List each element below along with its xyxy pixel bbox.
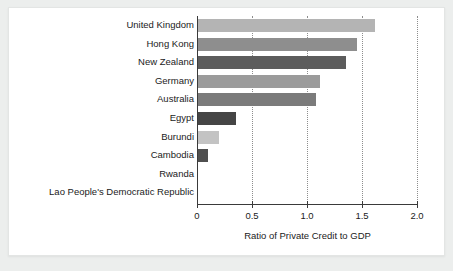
x-tick-label: 2.0 xyxy=(397,210,437,221)
bar xyxy=(197,93,316,106)
gridline-1.5 xyxy=(362,16,363,204)
x-tick xyxy=(362,201,363,208)
category-label: Rwanda xyxy=(0,169,194,179)
bar xyxy=(197,131,219,144)
x-tick xyxy=(252,201,253,208)
gridline-2.0 xyxy=(417,16,418,204)
chart-figure: United KingdomHong KongNew ZealandGerman… xyxy=(8,7,445,256)
bar xyxy=(197,112,236,125)
bar xyxy=(197,149,208,162)
category-label: Australia xyxy=(0,94,194,104)
plot-area: United KingdomHong KongNew ZealandGerman… xyxy=(9,8,446,257)
category-label: New Zealand xyxy=(0,57,194,67)
category-label: Lao People's Democratic Republic xyxy=(0,187,194,197)
category-label: United Kingdom xyxy=(0,20,194,30)
x-tick xyxy=(197,201,198,208)
bar xyxy=(197,56,346,69)
x-axis-title: Ratio of Private Credit to GDP xyxy=(197,230,418,241)
x-tick-label: 0.5 xyxy=(232,210,272,221)
x-tick-label: 1.5 xyxy=(342,210,382,221)
category-label: Hong Kong xyxy=(0,39,194,49)
bar xyxy=(197,75,320,88)
y-axis-line xyxy=(197,16,198,205)
bar xyxy=(197,19,375,32)
category-label: Egypt xyxy=(0,113,194,123)
x-tick-label: 0 xyxy=(177,210,217,221)
x-tick-label: 1.0 xyxy=(287,210,327,221)
bar xyxy=(197,38,357,51)
x-tick xyxy=(307,201,308,208)
category-label: Burundi xyxy=(0,132,194,142)
category-label: Cambodia xyxy=(0,150,194,160)
category-label: Germany xyxy=(0,76,194,86)
x-tick xyxy=(417,201,418,208)
